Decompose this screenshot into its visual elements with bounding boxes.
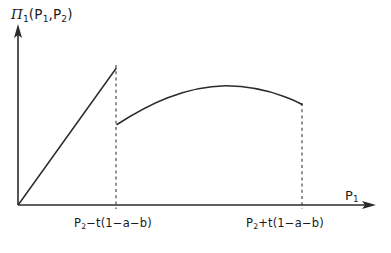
linear-segment-path	[19, 69, 117, 205]
x-axis-title-main: P	[345, 188, 353, 203]
y-axis-title-subscript: 1	[23, 13, 29, 24]
y-axis-title-arg1-subscript: 1	[43, 13, 49, 24]
y-axis	[14, 24, 22, 205]
tick-label-right-suffix: +t(1−a−b)	[258, 216, 324, 230]
y-axis-title-pi: Π	[11, 6, 23, 22]
x-axis-title-subscript: 1	[353, 194, 359, 204]
tick-label-right-subscript: 2	[253, 222, 258, 231]
x-axis	[18, 201, 376, 209]
y-axis-title-close: )	[67, 6, 72, 22]
tick-label-right: P2+t(1−a−b)	[246, 216, 324, 230]
y-axis-title-comma: ,P	[48, 6, 61, 22]
y-axis-title: Π1(P1,P2)	[11, 6, 73, 22]
tick-label-left-subscript: 2	[81, 222, 86, 231]
y-axis-title-open: (P	[29, 6, 43, 22]
tick-label-left: P2−t(1−a−b)	[74, 216, 152, 230]
profit-function-chart	[0, 0, 391, 253]
concave-segment-path	[117, 86, 302, 125]
x-axis-title: P1	[345, 188, 359, 203]
y-axis-title-arg2-subscript: 2	[61, 13, 67, 24]
tick-label-left-suffix: −t(1−a−b)	[86, 216, 152, 230]
